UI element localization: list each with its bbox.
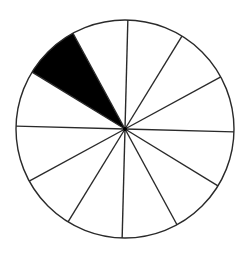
fraction-circle <box>0 0 247 254</box>
fraction-circle-figure: 1/12 <box>0 0 247 254</box>
center-point <box>123 127 127 131</box>
